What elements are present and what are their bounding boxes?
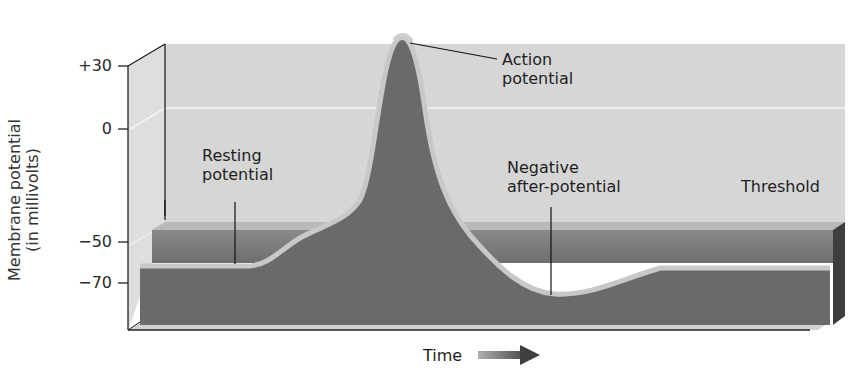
x-axis-label: Time [423,346,462,365]
tick-label-0: 0 [72,119,112,138]
y-axis-label-line2: (in millivolts) [24,75,42,325]
y-axis-label: Membrane potential (in millivolts) [6,75,42,325]
label-resting-line1: Resting [202,146,273,165]
label-negative-line1: Negative [507,158,621,177]
label-negative-line2: after-potential [507,177,621,196]
tick-label-minus50: −50 [72,232,112,251]
tick-label-plus30: +30 [72,56,112,75]
label-threshold: Threshold [741,177,820,196]
y-axis-label-line1: Membrane potential [6,75,24,325]
label-action-potential: Action potential [502,50,573,88]
threshold-band-top [152,222,845,230]
action-potential-figure: +30 0 −50 −70 Membrane potential (in mil… [0,0,861,378]
right-arrow-icon [478,345,540,365]
label-resting-potential: Resting potential [202,146,273,184]
slab-side [833,222,845,325]
tick-label-minus70: −70 [72,273,112,292]
label-action-line2: potential [502,69,573,88]
label-resting-line2: potential [202,165,273,184]
label-action-line1: Action [502,50,573,69]
diagram-graphics [0,0,861,378]
label-negative-after-potential: Negative after-potential [507,158,621,196]
